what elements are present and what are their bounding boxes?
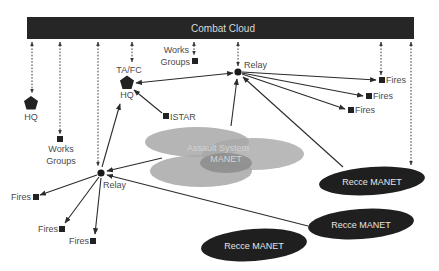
network-diagram: Combat Cloud Assault System MANET Recce … <box>0 0 439 271</box>
combat-cloud-label: Combat Cloud <box>191 23 255 34</box>
recce-manet-1: Recce MANET <box>318 163 426 198</box>
link-relay-bottom-to-fires-c <box>95 178 101 234</box>
recce-manet-1-label: Recce MANET <box>342 177 402 187</box>
fires-right-3-label: Fires <box>355 105 375 115</box>
square-node-icon <box>90 238 96 244</box>
fires-left-1-label: Fires <box>11 192 31 202</box>
relay-bottom-node: Relay <box>97 169 126 190</box>
fires-left-3-label: Fires <box>69 236 89 246</box>
square-node-icon <box>366 93 372 99</box>
assault-system-manet: Assault System MANET <box>145 127 304 187</box>
link-relay-top-to-fires-3 <box>242 74 345 109</box>
fires-left-2-label: Fires <box>38 224 58 234</box>
fires-right-1-label: Fires <box>386 75 406 85</box>
link-istar-to-ta-hq <box>134 90 162 113</box>
fires-right-1: Fires <box>379 75 406 85</box>
recce-manet-2: Recce MANET <box>307 205 415 242</box>
square-node-icon <box>163 113 169 119</box>
fires-left-1: Fires <box>11 192 39 202</box>
relay-dot-icon <box>97 169 104 176</box>
fires-right-2: Fires <box>366 91 393 101</box>
ta-fc-label: TA/FC <box>116 65 142 75</box>
pentagon-hq-icon <box>24 96 38 110</box>
fires-right-3: Fires <box>348 105 375 115</box>
fires-left-3: Fires <box>69 236 96 246</box>
square-node-icon <box>348 107 354 113</box>
works-groups-left-line2: Groups <box>46 156 76 166</box>
hq-left-label: HQ <box>24 112 38 122</box>
works-groups-left-line1: Works <box>48 144 74 154</box>
square-node-icon <box>59 226 65 232</box>
recce-manet-3-label: Recce MANET <box>224 241 284 251</box>
ta-fc-hq-label: HQ <box>120 90 134 100</box>
relay-dot-icon <box>234 68 241 75</box>
relay-top-label: Relay <box>244 60 268 70</box>
fires-left-2: Fires <box>38 224 65 234</box>
combat-cloud-bar: Combat Cloud <box>27 17 414 39</box>
assault-label-line2: MANET <box>210 154 242 164</box>
fires-right-2-label: Fires <box>373 91 393 101</box>
works-groups-top-node: Works Groups <box>160 45 198 67</box>
recce-manet-2-label: Recce MANET <box>331 220 391 230</box>
assault-label-line1: Assault System <box>187 143 249 153</box>
works-groups-top-line1: Works <box>164 45 190 55</box>
square-node-icon <box>33 194 39 200</box>
link-assault-to-relay-top <box>231 79 237 126</box>
istar-node: ISTAR <box>163 112 196 122</box>
square-node-icon <box>192 58 198 64</box>
works-groups-left-node: Works Groups <box>46 136 76 166</box>
square-node-icon <box>379 77 385 83</box>
link-relay-bottom-to-ta-hq <box>102 104 120 167</box>
istar-label: ISTAR <box>170 112 196 122</box>
recce-manet-3: Recce MANET <box>200 225 308 264</box>
pentagon-hq-icon <box>120 76 134 90</box>
relay-bottom-label: Relay <box>103 180 127 190</box>
hq-left-node: HQ <box>24 96 38 122</box>
link-relay-top-to-ta-hq <box>136 73 233 83</box>
works-groups-top-line2: Groups <box>160 57 190 67</box>
link-relay-top-to-fires-1 <box>242 72 376 80</box>
square-node-icon <box>57 136 63 142</box>
